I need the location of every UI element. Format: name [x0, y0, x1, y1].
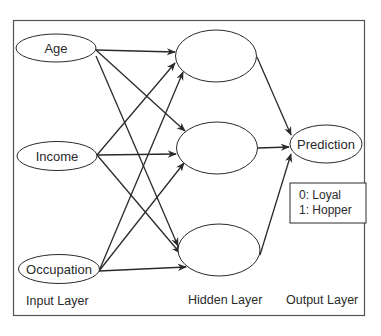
edge-age-h1: [96, 50, 175, 52]
node-hidden-3: [178, 224, 260, 276]
edges-input-to-hidden: [96, 50, 186, 271]
legend-box: 0: Loyal 1: Hopper: [290, 183, 366, 223]
legend-line-hopper: 1: Hopper: [299, 203, 352, 217]
legend-line-loyal: 0: Loyal: [299, 188, 341, 202]
edge-h1-prediction: [257, 57, 291, 135]
node-hidden-2: [177, 122, 258, 174]
node-income: Income: [17, 142, 97, 171]
hidden-layer-nodes: [176, 30, 261, 276]
node-age-label: Age: [44, 41, 67, 56]
node-hidden-1: [176, 30, 257, 82]
node-income-label: Income: [36, 149, 79, 164]
output-layer-label: Output Layer: [286, 293, 358, 307]
edge-income-h2: [97, 154, 176, 155]
edge-income-h1: [97, 63, 175, 155]
node-prediction: Prediction: [290, 125, 362, 163]
edge-age-h2: [96, 50, 185, 131]
neural-network-diagram: Age Income Occupation Prediction 0: Loya…: [0, 0, 381, 336]
node-age: Age: [16, 34, 96, 62]
edge-h2-prediction: [258, 147, 289, 148]
input-layer-nodes: Age Income Occupation: [16, 34, 100, 284]
edge-occupation-h2: [99, 163, 184, 271]
edge-h3-prediction: [260, 154, 291, 255]
node-prediction-label: Prediction: [297, 137, 355, 152]
edges-hidden-to-output: [257, 57, 291, 255]
edge-age-h3: [96, 56, 178, 246]
node-occupation-label: Occupation: [26, 262, 92, 277]
hidden-layer-label: Hidden Layer: [188, 293, 262, 307]
node-occupation: Occupation: [19, 255, 100, 284]
edge-occupation-h3: [99, 267, 186, 271]
input-layer-label: Input Layer: [26, 294, 89, 308]
edge-income-h3: [97, 155, 180, 253]
